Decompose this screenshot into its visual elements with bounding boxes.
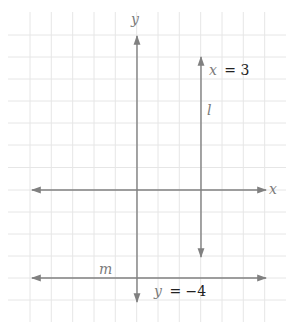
line-m-equation-value: = −4: [169, 283, 206, 299]
grid: [8, 12, 286, 322]
line-l-equation: x = 3: [209, 62, 249, 78]
line-l-label: l: [207, 102, 211, 118]
x-axis-label: x: [269, 181, 277, 197]
line-m-label: m: [99, 261, 112, 277]
line-l-equation-var: x: [209, 62, 217, 78]
line-m-equation-var: y: [153, 283, 163, 299]
y-axis-label: y: [130, 11, 140, 27]
line-l-equation-value: = 3: [224, 62, 249, 78]
coordinate-plane: y x x = 3 l m y = −4: [0, 0, 290, 329]
line-m-equation: y = −4: [153, 283, 206, 299]
